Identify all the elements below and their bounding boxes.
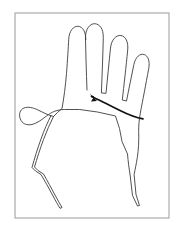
hand-figure bbox=[0, 0, 179, 230]
figure-border bbox=[15, 13, 169, 218]
hand-figure-svg bbox=[0, 0, 179, 230]
figure-container bbox=[0, 0, 179, 230]
